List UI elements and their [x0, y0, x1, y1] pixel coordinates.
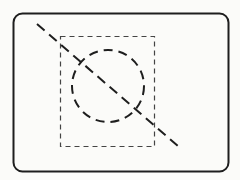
background — [0, 0, 240, 180]
diagram-canvas — [0, 0, 240, 180]
